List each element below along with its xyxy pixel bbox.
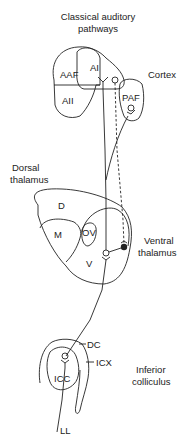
auditory-pathway-diagram: Classical auditory pathways AAF AI AII P… — [0, 0, 187, 442]
ventral-thalamus-neuron-icon — [121, 244, 127, 250]
label-inferior-line-2: colliculus — [132, 376, 171, 387]
label-cortex: Cortex — [148, 69, 176, 80]
paf-neuron-icon — [128, 105, 134, 111]
label-v: V — [86, 258, 93, 269]
ai-outline — [77, 48, 124, 89]
label-m: M — [54, 229, 62, 240]
label-ov: OV — [82, 227, 96, 238]
label-dorsal-line-1: Dorsal — [12, 162, 39, 173]
label-aii: AII — [62, 95, 74, 106]
ai-terminal-icon — [98, 77, 108, 89]
label-aaf: AAF — [60, 69, 79, 80]
v-neuron-icon — [103, 250, 109, 256]
thalamocortical-axon-ai — [103, 89, 106, 250]
icc-neuron-icon — [62, 353, 68, 359]
title-line-2: pathways — [78, 23, 118, 34]
inferior-colliculus-region: DC ICX ICC — [39, 339, 112, 413]
thalamus-region: D M OV V — [34, 189, 131, 284]
label-ai: AI — [90, 62, 99, 73]
corticothalamic-dashed-projection — [115, 83, 124, 244]
label-ll: LL — [60, 425, 71, 436]
label-dorsal-line-2: thalamus — [10, 174, 49, 185]
label-dc: DC — [87, 339, 101, 350]
label-inferior-line-1: Inferior — [136, 364, 166, 375]
label-d: D — [58, 200, 65, 211]
label-icx: ICX — [96, 357, 113, 368]
ai-neuron-icon — [112, 77, 118, 83]
label-ventral-line-2: thalamus — [138, 247, 177, 258]
label-paf: PAF — [122, 92, 140, 103]
label-icc: ICC — [54, 373, 71, 384]
title-line-1: Classical auditory — [61, 11, 136, 22]
m-outline — [40, 219, 81, 262]
reticular-connection — [109, 248, 121, 252]
label-ventral-line-1: Ventral — [144, 235, 174, 246]
